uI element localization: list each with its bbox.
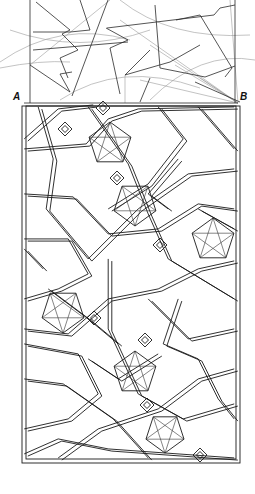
lattice-band	[24, 249, 47, 271]
lattice-band	[24, 439, 238, 460]
lattice-band	[24, 239, 92, 301]
construction-outline	[24, 0, 240, 103]
star-rosette	[89, 122, 131, 162]
lattice-band	[58, 369, 238, 460]
lattice-band	[24, 344, 102, 431]
lattice-band	[198, 107, 238, 151]
pattern-frame	[22, 106, 240, 463]
lattice-band	[24, 105, 97, 141]
lattice-band	[198, 209, 238, 231]
diamond-knot	[138, 333, 152, 347]
diamond-knot	[110, 171, 124, 185]
lattice-band	[24, 194, 238, 236]
diamond-knot	[140, 398, 154, 412]
lattice-band	[108, 107, 187, 211]
star-rosette	[192, 218, 234, 258]
lattice-band	[108, 259, 238, 421]
interlaced-lattice	[24, 105, 238, 460]
lattice-band	[148, 299, 238, 341]
construction-lines	[0, 0, 255, 103]
star-rosette	[146, 417, 184, 453]
geometric-pattern-diagram	[0, 0, 255, 494]
lattice-band	[24, 261, 238, 336]
lattice-band	[38, 107, 238, 261]
lattice-band	[163, 299, 238, 421]
star-rosette	[114, 351, 156, 391]
diamond-knot	[58, 122, 72, 136]
